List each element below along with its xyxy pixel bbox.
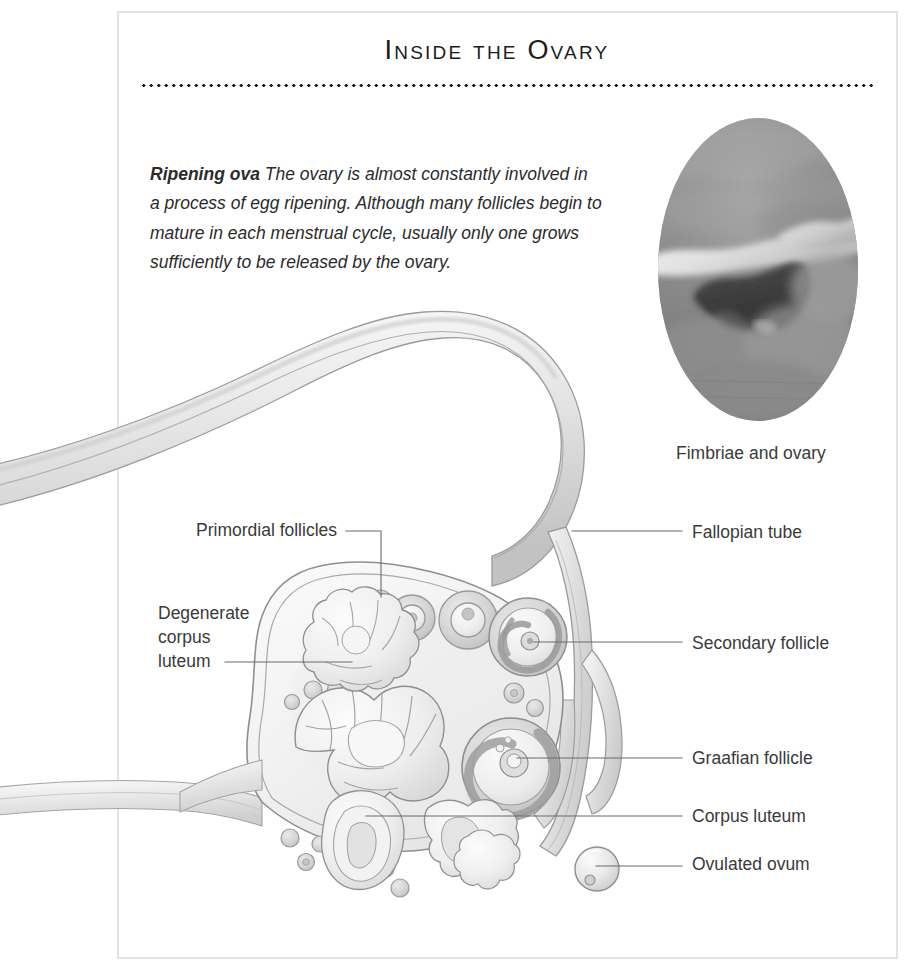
degenerate-corpus-luteum [303, 587, 419, 691]
label-primordial-follicles: Primordial follicles [196, 518, 337, 542]
graafian-follicle [462, 718, 560, 817]
atretic-follicles [322, 791, 520, 890]
label-secondary-follicle: Secondary follicle [692, 631, 829, 655]
endoscopic-photo [658, 118, 858, 421]
broad-ligament [0, 780, 262, 826]
label-degenerate-corpus-luteum: Degenerate corpus luteum [158, 601, 262, 673]
secondary-follicle [489, 598, 567, 676]
ovulated-ovum [575, 847, 619, 891]
growing-follicles [389, 591, 497, 649]
intro-lead-in: Ripening ova [150, 164, 260, 184]
photo-caption: Fimbriae and ovary [676, 443, 826, 464]
leader-lines [225, 531, 682, 866]
intro-paragraph: Ripening ova The ovary is almost constan… [150, 160, 602, 278]
label-corpus-luteum: Corpus luteum [692, 804, 806, 828]
corpus-luteum [295, 686, 449, 804]
page-title: Inside the Ovary [117, 36, 877, 66]
label-fallopian-tube: Fallopian tube [692, 520, 802, 544]
fimbriae-photo-inset [658, 118, 858, 421]
fallopian-tube [0, 311, 622, 856]
label-graafian-follicle: Graafian follicle [692, 746, 813, 770]
label-ovulated-ovum: Ovulated ovum [692, 852, 810, 876]
title-block: Inside the Ovary [117, 36, 877, 66]
primordial-follicles [281, 590, 544, 897]
title-dotted-rule [140, 83, 873, 88]
leader-primordial-follicles [346, 531, 381, 597]
